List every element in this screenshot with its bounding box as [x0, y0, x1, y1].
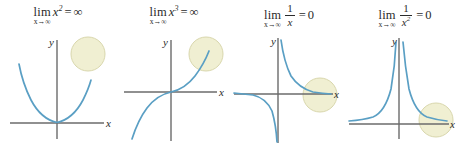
- curve-branch-left: [349, 42, 396, 121]
- limit-value: 0: [308, 9, 314, 22]
- formula-limit-x-cubed: lim x→∞ x3=∞: [116, 6, 232, 25]
- limit-value: ∞: [189, 6, 198, 19]
- numerator: 1: [285, 3, 295, 15]
- fraction-one-over-x-squared: 1x2: [400, 3, 412, 28]
- limits-at-infinity-figure: lim x→∞ x2=∞ y x lim x→∞ x3=∞: [0, 0, 463, 145]
- graph-svg-one-over-x-squared: y x: [347, 26, 463, 145]
- limit-value: ∞: [73, 6, 82, 19]
- panel-limit-x-cubed: lim x→∞ x3=∞ y x: [116, 0, 232, 145]
- relation-sign: =: [299, 9, 306, 22]
- graph-cubic: y x: [116, 26, 232, 145]
- relation-sign: =: [416, 9, 423, 22]
- highlight-circle: [189, 37, 223, 71]
- x-axis-label: x: [449, 118, 455, 130]
- graph-one-over-x-squared: y x: [347, 26, 463, 145]
- y-axis-label: y: [391, 35, 397, 47]
- numerator: 1: [400, 3, 412, 15]
- y-axis-label: y: [270, 35, 276, 47]
- panel-limit-one-over-x-squared: lim x→∞ 1x2=0 y x: [347, 0, 463, 145]
- panel-limit-x-squared: lim x→∞ x2=∞ y x: [0, 0, 116, 145]
- relation-sign: =: [180, 6, 187, 19]
- expression: x3: [169, 6, 179, 19]
- lim-operator: lim x→∞: [150, 6, 167, 25]
- graph-svg-x-cubed: y x: [116, 26, 232, 145]
- expression: x2: [53, 6, 63, 19]
- exponent: 2: [58, 4, 62, 13]
- y-axis-label: y: [48, 36, 54, 48]
- graph-svg-one-over-x: y x: [231, 26, 347, 145]
- denominator-exponent: 2: [407, 15, 411, 23]
- graph-parabola: y x: [0, 26, 116, 145]
- highlight-circle: [303, 78, 337, 112]
- x-axis-label: x: [333, 88, 339, 100]
- curve-branch-quadrant-3: [234, 93, 277, 142]
- graph-hyperbola: y x: [231, 26, 347, 145]
- highlight-circle: [71, 37, 105, 71]
- panel-limit-one-over-x: lim x→∞ 1x=0 y x: [231, 0, 347, 145]
- fraction-one-over-x: 1x: [285, 3, 295, 28]
- formula-limit-x-squared: lim x→∞ x2=∞: [0, 6, 116, 25]
- y-axis-label: y: [162, 36, 168, 48]
- exponent: 3: [174, 4, 178, 13]
- limit-value: 0: [425, 9, 431, 22]
- lim-operator: lim x→∞: [34, 6, 51, 25]
- x-axis-label: x: [218, 86, 224, 98]
- curve-parabola: [19, 64, 91, 123]
- x-axis-label: x: [105, 117, 111, 129]
- relation-sign: =: [64, 6, 71, 19]
- graph-svg-x-squared: y x: [0, 26, 116, 145]
